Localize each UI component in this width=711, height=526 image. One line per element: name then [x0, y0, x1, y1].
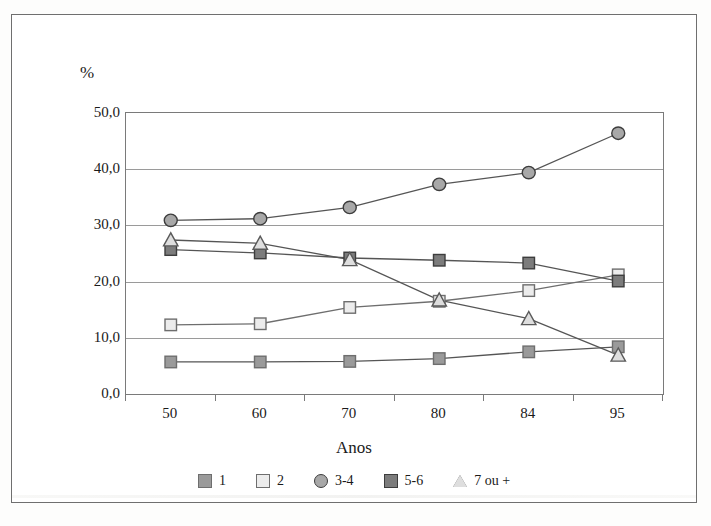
y-axis-tick-label: 40,0: [76, 160, 120, 177]
data-point-marker: [255, 356, 267, 368]
legend-item[interactable]: 2: [256, 473, 284, 489]
y-axis-tick-labels: 0,010,020,030,040,050,0: [70, 112, 120, 393]
x-axis-title: Anos: [12, 438, 696, 458]
series-2: [171, 275, 619, 325]
data-point-marker: [523, 285, 535, 297]
data-point-marker: [613, 275, 625, 287]
x-axis-tick: [215, 394, 216, 401]
circle-gray-icon: [314, 474, 328, 488]
series-markers-2: [165, 269, 624, 331]
legend-item-label: 2: [277, 473, 284, 489]
x-axis-tick-label: 60: [229, 405, 289, 422]
y-axis-tick-label: 30,0: [76, 216, 120, 233]
series-line: [171, 250, 619, 281]
x-axis-tick-label: 50: [140, 405, 200, 422]
x-axis-tick-label: 95: [587, 405, 647, 422]
y-axis-tick-label: 50,0: [76, 104, 120, 121]
x-axis-tick: [394, 394, 395, 401]
series-1: [171, 347, 619, 362]
series-markers-3-4: [164, 127, 625, 227]
data-point-marker: [165, 319, 177, 331]
data-point-marker: [344, 356, 356, 368]
x-axis-tick-label: 84: [498, 405, 558, 422]
data-point-marker: [434, 353, 446, 365]
x-axis-ticks: [125, 394, 664, 402]
square-white-icon: [256, 474, 270, 488]
legend-item[interactable]: 3-4: [314, 473, 354, 489]
series-plot: [126, 113, 663, 394]
series-7ou: [171, 240, 619, 355]
series-line: [171, 275, 619, 325]
data-point-marker: [523, 346, 535, 358]
legend-item[interactable]: 5-6: [384, 473, 424, 489]
figure-frame: % 0,010,020,030,040,050,0 506070808495 A…: [11, 14, 697, 503]
series-line: [171, 133, 619, 220]
x-axis-tick: [304, 394, 305, 401]
data-point-marker: [433, 178, 446, 190]
legend-item-label: 5-6: [405, 473, 424, 489]
data-point-marker: [344, 302, 356, 314]
x-axis-tick: [573, 394, 574, 401]
legend-item[interactable]: 7 ou +: [453, 473, 510, 489]
legend-item-label: 3-4: [335, 473, 354, 489]
data-point-marker: [343, 201, 356, 213]
data-point-marker: [164, 233, 178, 246]
x-axis-tick: [662, 394, 663, 401]
series-line: [171, 347, 619, 362]
legend-item[interactable]: 1: [198, 473, 226, 489]
y-axis-title: %: [80, 63, 95, 83]
legend-item-label: 7 ou +: [474, 473, 510, 489]
x-axis-tick-label: 80: [408, 405, 468, 422]
legend-item-label: 1: [219, 473, 226, 489]
data-point-marker: [522, 166, 535, 178]
y-axis-tick-label: 10,0: [76, 328, 120, 345]
series-3-4: [171, 133, 619, 220]
data-point-marker: [165, 356, 177, 368]
plot-area: [125, 112, 664, 395]
series-5-6: [171, 250, 619, 281]
square-darkgray-icon: [384, 474, 398, 488]
data-point-marker: [164, 214, 177, 226]
data-point-marker: [612, 127, 625, 139]
chart-legend: 123-45-67 ou +: [12, 473, 696, 489]
data-point-marker: [254, 212, 267, 224]
y-axis-tick-label: 0,0: [76, 385, 120, 402]
data-point-marker: [255, 318, 267, 330]
x-axis-tick-labels: 506070808495: [125, 405, 662, 425]
square-gray-icon: [198, 474, 212, 488]
x-axis-tick: [125, 394, 126, 401]
triangle-white-icon: [453, 475, 467, 487]
x-axis-tick-label: 70: [319, 405, 379, 422]
scan-edge-artifact: [12, 495, 696, 498]
data-point-marker: [434, 254, 446, 266]
data-point-marker: [523, 257, 535, 269]
series-markers-1: [165, 341, 624, 368]
y-axis-tick-label: 20,0: [76, 272, 120, 289]
series-line: [171, 240, 619, 355]
x-axis-tick: [483, 394, 484, 401]
